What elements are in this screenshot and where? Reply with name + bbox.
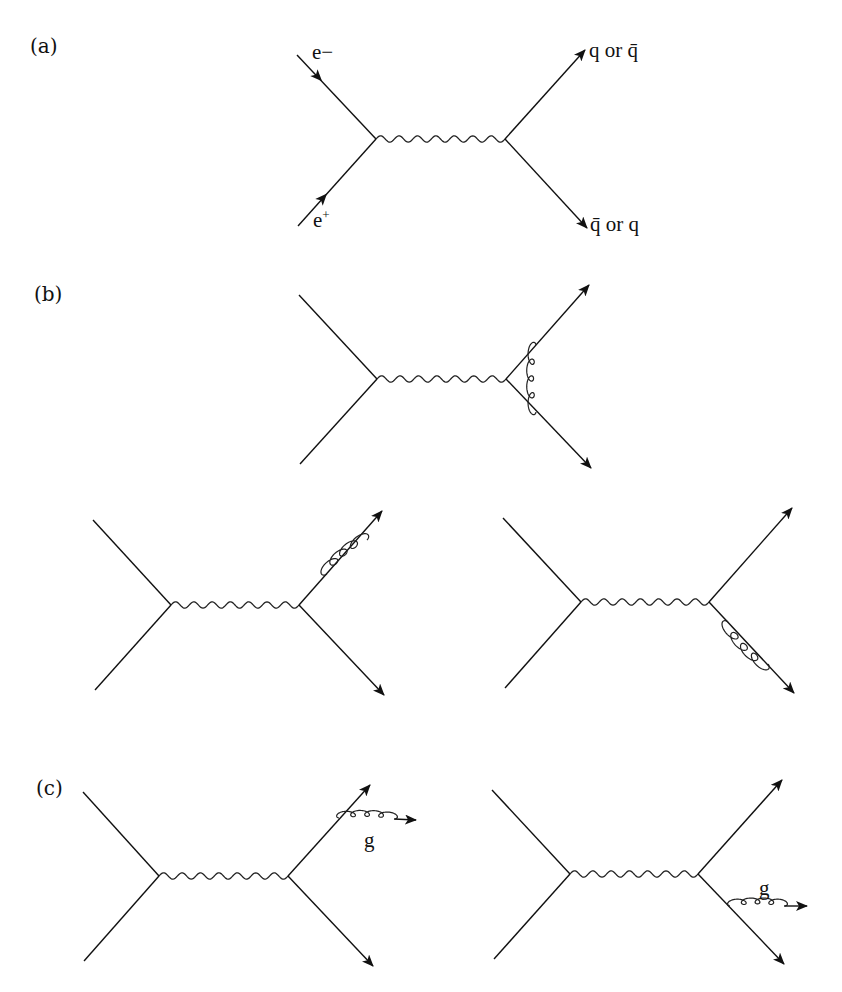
quark-out-bottom — [505, 139, 587, 228]
diagram-b-self-energy-lower — [503, 508, 794, 693]
panel-label-c: (c) — [36, 776, 63, 800]
electron-line — [297, 55, 376, 139]
label-positron: e+ — [313, 207, 330, 233]
label-electron: e− — [312, 40, 333, 65]
gluon-emission-lower — [728, 898, 788, 906]
gluon-self-energy-upper — [321, 534, 369, 576]
label-gluon-c-left: g — [364, 828, 375, 853]
photon-line — [376, 136, 505, 142]
gluon-self-energy-lower — [722, 621, 769, 670]
gluon-vertex-exchange — [527, 342, 536, 414]
diagram-a — [297, 50, 587, 228]
diagram-b-self-energy-upper — [93, 511, 384, 695]
label-gluon-c-right: g — [759, 876, 770, 901]
feynman-diagrams — [0, 0, 842, 992]
positron-line — [298, 139, 376, 226]
gluon-emission-upper — [337, 810, 398, 819]
diagram-c-emission-lower — [492, 780, 807, 964]
panel-label-a: (a) — [30, 34, 58, 58]
label-out-bottom: q̄ or q — [590, 212, 639, 237]
diagram-c-emission-upper — [83, 785, 416, 966]
label-positron-sup: + — [322, 207, 329, 222]
label-out-top: q or q̄ — [589, 38, 638, 63]
panel-label-b: (b) — [34, 282, 62, 306]
diagram-b-vertex — [299, 285, 591, 468]
quark-out-top — [505, 50, 585, 139]
